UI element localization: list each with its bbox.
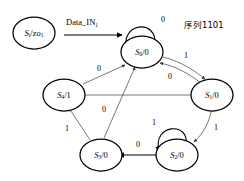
transition-s2-s3[interactable]: 0 xyxy=(119,140,157,155)
transition-s1-s0[interactable]: 0 xyxy=(160,63,201,83)
data-in-label: Data_IN1 xyxy=(66,17,98,28)
data-in-arrow-group: Data_IN1 xyxy=(64,17,122,35)
state-machine-diagram: Si/zo1 Data_IN1 序列1101 0 1 0 1 1 0 xyxy=(0,0,244,181)
state-node-s2[interactable]: S2/0 xyxy=(156,139,198,171)
transition-s3-s0[interactable]: 0 xyxy=(102,67,135,138)
state-node-s4[interactable]: S4/1 xyxy=(43,79,85,111)
state-label-s3: S3/0 xyxy=(94,149,108,159)
state-label-s2: S2/0 xyxy=(170,149,184,159)
transition-s1-s2-label: 1 xyxy=(214,123,218,132)
state-label-s1: S1/0 xyxy=(205,89,219,99)
transition-s3-s4-label: 1 xyxy=(65,124,69,133)
transition-s1-s0-path xyxy=(160,63,201,83)
state-label-s0: S0/0 xyxy=(135,46,149,56)
transition-s4-s0-path xyxy=(83,65,125,84)
state-node-s3[interactable]: S3/0 xyxy=(80,139,122,171)
transition-s1-s0-label: 0 xyxy=(168,72,172,81)
transition-s2-s2-label: 1 xyxy=(152,118,156,127)
transition-s4-s0-label: 0 xyxy=(97,64,101,73)
diagram-caption: 序列1101 xyxy=(184,20,224,30)
state-label-s4: S4/1 xyxy=(57,89,71,99)
transition-s3-s4[interactable]: 1 xyxy=(65,108,90,140)
initial-state-node[interactable]: Si/zo1 xyxy=(13,17,55,49)
transition-s3-s0-label: 0 xyxy=(102,105,106,114)
transition-s0-s1-label: 1 xyxy=(184,51,188,60)
transition-s3-s4-path xyxy=(69,108,90,140)
transition-s4-s0[interactable]: 0 xyxy=(83,64,125,84)
state-node-s1[interactable]: S1/0 xyxy=(191,79,233,111)
transition-s2-s3-label: 0 xyxy=(136,140,140,149)
transition-s0-s0-label: 0 xyxy=(161,15,165,24)
state-node-s0[interactable]: S0/0 xyxy=(121,36,163,68)
transition-s3-s0-path xyxy=(104,67,135,138)
